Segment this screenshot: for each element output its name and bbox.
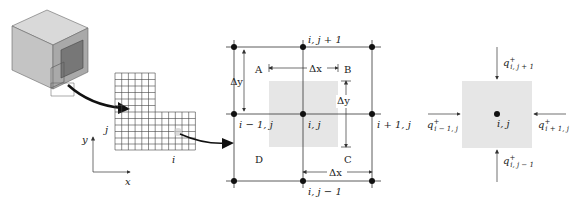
node-top-label: i, j + 1 xyxy=(308,34,342,45)
axis-y-label: y xyxy=(81,134,88,145)
flux-bottom-label: q+i, j − 1 xyxy=(503,154,534,169)
axis-x-label: x xyxy=(125,176,131,187)
zoom-arrow-2 xyxy=(180,134,228,143)
node-left-label: i − 1, j xyxy=(239,119,273,130)
node-right-label: i + 1, j xyxy=(377,119,411,130)
finite-difference-diagram: j i y x Δx Δx Δy Δy A B C xyxy=(0,0,577,202)
node-bottom-label: i, j − 1 xyxy=(308,186,342,197)
dy-left-label: Δy xyxy=(230,76,243,87)
grid-i-label: i xyxy=(172,154,175,165)
corner-a-label: A xyxy=(254,64,263,75)
flux-left-label: q+i − 1, j xyxy=(427,118,459,133)
dy-right-label: Δy xyxy=(337,95,350,106)
node-center-label: i, j xyxy=(308,119,321,130)
center-node xyxy=(494,111,500,117)
dx-bottom-label: Δx xyxy=(329,167,342,178)
corner-d-label: D xyxy=(255,154,263,165)
grid-j-label: j xyxy=(103,124,108,135)
corner-c-label: C xyxy=(344,154,352,165)
xy-axes xyxy=(93,137,130,172)
corner-b-label: B xyxy=(344,64,351,75)
l-shaped-grid xyxy=(115,73,195,150)
dx-top-label: Δx xyxy=(309,63,322,74)
zoom-arrow-1 xyxy=(68,85,122,108)
flux-top-label: q+i, j + 1 xyxy=(503,56,534,71)
center-node-label: i, j xyxy=(497,118,510,129)
flux-right-label: q+i + 1, j xyxy=(538,118,570,133)
cube-illustration xyxy=(12,10,88,96)
